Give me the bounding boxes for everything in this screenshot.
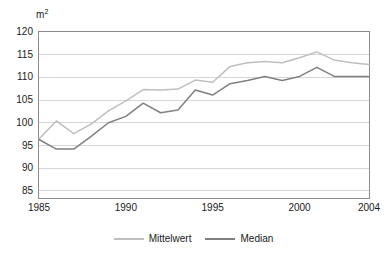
y-axis-tick-label: 120 — [0, 26, 33, 37]
legend-label: Median — [240, 233, 273, 244]
series-lines — [38, 31, 370, 199]
series-line-median — [39, 67, 369, 149]
legend-line-icon — [114, 238, 144, 240]
y-axis-tick-label: 85 — [0, 184, 33, 195]
y-axis-tick-label: 115 — [0, 48, 33, 59]
legend-line-icon — [205, 238, 235, 240]
chart-container: m2 859095100105110115120 198519901995200… — [0, 0, 387, 257]
x-axis-tick-label: 1995 — [202, 202, 224, 213]
legend-item[interactable]: Mittelwert — [114, 233, 192, 244]
series-line-mittelwert — [39, 52, 369, 139]
y-axis-tick-label: 100 — [0, 116, 33, 127]
y-axis-tick-label: 90 — [0, 162, 33, 173]
x-axis-tick-label: 1990 — [115, 202, 137, 213]
legend-item[interactable]: Median — [205, 233, 273, 244]
y-axis-unit-label: m2 — [36, 8, 49, 20]
legend-label: Mittelwert — [149, 233, 192, 244]
y-axis-tick-label: 95 — [0, 139, 33, 150]
chart-legend: MittelwertMedian — [0, 233, 387, 244]
y-axis-tick-label: 105 — [0, 94, 33, 105]
x-axis-tick-label: 2004 — [358, 202, 380, 213]
y-axis-tick-label: 110 — [0, 71, 33, 82]
x-axis-tick-label: 2000 — [288, 202, 310, 213]
x-axis-tick-label: 1985 — [28, 202, 50, 213]
